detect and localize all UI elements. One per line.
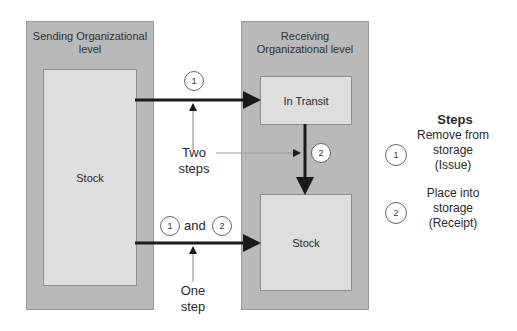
receiving-stock-label: Stock [292,237,320,249]
sending-stock-box: Stock [43,69,137,286]
step-2-marker: 2 [311,143,331,163]
receiving-level-title: Receiving Organizational level [246,30,364,56]
sending-stock-label: Stock [76,172,104,184]
step-1-marker: 1 [184,71,204,91]
one-step-and-label: and [184,218,206,234]
legend-title: Steps [425,112,485,127]
in-transit-label: In Transit [283,95,328,107]
sending-level-title: Sending Organizational level [31,30,149,56]
legend-label-1: Remove from storage (Issue) [413,128,493,173]
in-transit-box: In Transit [260,76,352,125]
legend-marker-1: 1 [385,144,407,166]
one-step-marker-2: 2 [212,216,232,236]
receiving-stock-box: Stock [260,194,352,291]
two-steps-annotation: Two steps [172,145,216,177]
legend-label-2: Place into storage (Receipt) [413,186,493,231]
one-step-annotation: One step [173,283,213,315]
legend-marker-2: 2 [385,202,407,224]
one-step-marker-1: 1 [160,216,180,236]
